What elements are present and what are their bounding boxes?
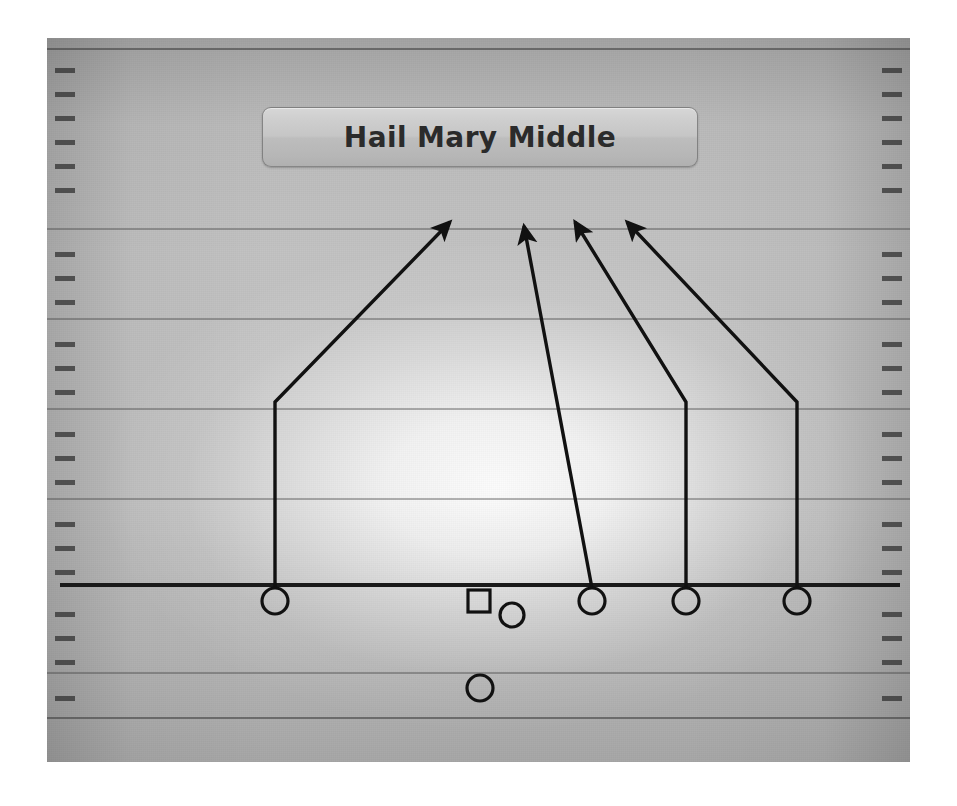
hash-mark-left-19: [55, 636, 75, 641]
hash-mark-right-0: [882, 68, 902, 73]
hash-mark-left-16: [55, 546, 75, 551]
play-title-plate[interactable]: Hail Mary Middle: [262, 107, 698, 167]
hash-mark-left-15: [55, 522, 75, 527]
hash-mark-left-5: [55, 188, 75, 193]
yard-line-5: [47, 672, 910, 674]
hash-mark-left-17: [55, 570, 75, 575]
play-diagram-canvas: Hail Mary Middle: [0, 0, 957, 806]
hash-mark-right-5: [882, 188, 902, 193]
hash-mark-right-14: [882, 480, 902, 485]
hash-mark-left-4: [55, 164, 75, 169]
hash-mark-right-6: [882, 252, 902, 257]
hash-mark-left-14: [55, 480, 75, 485]
hash-mark-left-11: [55, 390, 75, 395]
hash-mark-right-8: [882, 300, 902, 305]
hash-mark-left-9: [55, 342, 75, 347]
line-of-scrimmage: [60, 583, 900, 587]
hash-mark-right-15: [882, 522, 902, 527]
hash-mark-right-11: [882, 390, 902, 395]
hash-mark-left-10: [55, 366, 75, 371]
hash-mark-left-20: [55, 660, 75, 665]
hash-mark-right-12: [882, 432, 902, 437]
hash-mark-right-20: [882, 660, 902, 665]
hash-mark-left-2: [55, 116, 75, 121]
hash-mark-right-7: [882, 276, 902, 281]
hash-mark-right-3: [882, 140, 902, 145]
play-title-text: Hail Mary Middle: [344, 121, 616, 154]
hash-mark-right-13: [882, 456, 902, 461]
hash-mark-left-8: [55, 300, 75, 305]
yard-line-2: [47, 318, 910, 320]
hash-mark-right-9: [882, 342, 902, 347]
hash-mark-right-21: [882, 696, 902, 701]
hash-mark-right-4: [882, 164, 902, 169]
hash-mark-left-13: [55, 456, 75, 461]
hash-mark-left-18: [55, 612, 75, 617]
yard-line-6: [47, 717, 910, 719]
yard-line-0: [47, 48, 910, 50]
hash-mark-left-1: [55, 92, 75, 97]
yard-line-4: [47, 498, 910, 500]
hash-mark-right-1: [882, 92, 902, 97]
hash-mark-left-6: [55, 252, 75, 257]
hash-mark-left-0: [55, 68, 75, 73]
hash-mark-left-7: [55, 276, 75, 281]
hash-mark-right-10: [882, 366, 902, 371]
hash-mark-left-21: [55, 696, 75, 701]
yard-line-1: [47, 228, 910, 230]
hash-mark-right-2: [882, 116, 902, 121]
hash-mark-right-17: [882, 570, 902, 575]
hash-mark-left-3: [55, 140, 75, 145]
yard-line-3: [47, 408, 910, 410]
hash-mark-right-16: [882, 546, 902, 551]
hash-mark-left-12: [55, 432, 75, 437]
hash-mark-right-19: [882, 636, 902, 641]
hash-mark-right-18: [882, 612, 902, 617]
